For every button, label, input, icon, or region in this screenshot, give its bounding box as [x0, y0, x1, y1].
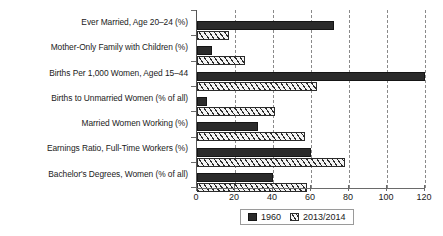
category-label-mother-only: Mother-Only Family with Children (%) — [0, 42, 188, 52]
x-axis-label-60: 60 — [290, 192, 330, 202]
category-axis-labels: Ever Married, Age 20–24 (%) Mother-Only … — [0, 10, 192, 188]
category-label-ever-married: Ever Married, Age 20–24 (%) — [0, 17, 188, 27]
x-axis-label-20: 20 — [214, 192, 254, 202]
bar-2014-mother-only — [197, 56, 245, 65]
x-axis-tick-60 — [310, 185, 311, 191]
bar-group-mother-only — [197, 46, 425, 68]
plot-inner — [197, 10, 425, 188]
category-label-births-unmarried: Births to Unmarried Women (% of all) — [0, 93, 188, 103]
x-axis-label-40: 40 — [252, 192, 292, 202]
category-label-earnings-ratio: Earnings Ratio, Full-Time Workers (%) — [0, 143, 188, 153]
legend-label-2013-2014: 2013/2014 — [303, 212, 346, 222]
category-label-births-per-1000: Births Per 1,000 Women, Aged 15–44 — [0, 68, 188, 78]
x-axis-tick-80 — [348, 185, 349, 191]
legend-hatched-swatch-icon — [290, 213, 299, 221]
category-label-married-working: Married Women Working (%) — [0, 118, 188, 128]
bar-1960-births-per-1000 — [197, 72, 425, 81]
bar-2014-earnings-ratio — [197, 158, 345, 167]
x-axis-label-80: 80 — [328, 192, 368, 202]
category-label-bachelors-degrees: Bachelor's Degrees, Women (% of all) — [0, 169, 188, 179]
legend-solid-dark-swatch-icon — [248, 213, 257, 221]
bar-1960-bachelors-degrees — [197, 173, 273, 182]
gridline-120 — [425, 10, 426, 188]
bar-group-earnings-ratio — [197, 148, 425, 170]
bar-group-births-per-1000 — [197, 72, 425, 94]
bar-1960-births-unmarried — [197, 97, 207, 106]
x-axis-label-100: 100 — [366, 192, 406, 202]
legend-item-1960: 1960 — [248, 212, 281, 222]
x-axis-tick-100 — [386, 185, 387, 191]
bar-2014-married-working — [197, 132, 305, 141]
bar-chart: Ever Married, Age 20–24 (%) Mother-Only … — [0, 0, 443, 236]
bar-group-births-unmarried — [197, 97, 425, 119]
bar-2014-ever-married — [197, 31, 229, 40]
chart-legend: 1960 2013/2014 — [240, 209, 354, 225]
bar-1960-ever-married — [197, 21, 334, 30]
bar-2014-births-unmarried — [197, 107, 275, 116]
plot-area — [196, 10, 425, 188]
x-axis-tick-20 — [234, 185, 235, 191]
legend-label-1960: 1960 — [261, 212, 281, 222]
x-axis-tick-40 — [272, 185, 273, 191]
x-axis-tick-120 — [424, 185, 425, 191]
legend-item-2013-2014: 2013/2014 — [290, 212, 346, 222]
bar-1960-mother-only — [197, 46, 212, 55]
bar-group-married-working — [197, 122, 425, 144]
x-axis-label-120: 120 — [404, 192, 443, 202]
x-axis-tick-0 — [196, 185, 197, 191]
bar-1960-earnings-ratio — [197, 148, 311, 157]
bar-group-ever-married — [197, 21, 425, 43]
x-axis-label-0: 0 — [176, 192, 216, 202]
bar-2014-births-per-1000 — [197, 82, 317, 91]
bar-1960-married-working — [197, 122, 258, 131]
